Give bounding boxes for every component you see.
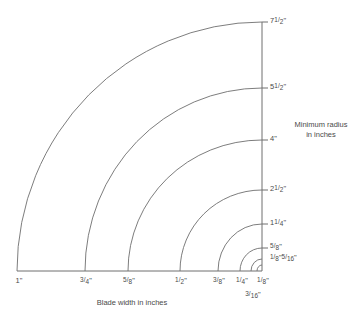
- tick-marks: [262, 22, 268, 248]
- y-tick-label-7-1-2: 71/2": [270, 17, 286, 25]
- arc-group: [17, 22, 262, 271]
- y-axis-title: Minimum radius in inches: [283, 120, 359, 140]
- x-axis-title: Blade width in inches: [62, 298, 202, 308]
- x-tick-label-3-16: 3/16": [245, 291, 261, 299]
- y-tick-label-5-1-2: 51/2": [270, 83, 286, 91]
- x-tick-label-1-2: 1/2": [175, 277, 187, 285]
- arc-1-8in: [257, 265, 262, 271]
- chart-canvas: [0, 0, 362, 322]
- y-axis-title-line2: in inches: [306, 130, 336, 139]
- arc-1-2in: [180, 190, 262, 271]
- y-tick-label-5-8: 5/8": [270, 243, 282, 251]
- x-tick-label-1-4: 1/4": [236, 277, 248, 285]
- x-tick-label-5-8: 5/8": [123, 277, 135, 285]
- arc-5-8in: [128, 140, 262, 271]
- x-tick-label-1-8: 1/8": [257, 277, 269, 285]
- arc-3-4in: [85, 88, 262, 271]
- y-tick-label-1-8: 1/8: [270, 253, 279, 260]
- y-tick-label-5-16: 5/16: [282, 253, 294, 260]
- y-tick-label-1-1-4: 11/4": [270, 219, 286, 227]
- x-tick-label-1: 1": [15, 277, 22, 285]
- arc-1in: [17, 22, 262, 271]
- x-tick-label-3-8: 3/8": [213, 277, 225, 285]
- arc-3-8in: [218, 224, 262, 271]
- x-tick-label-3-4: 3/4": [80, 277, 92, 285]
- y-tick-label-2-1-2: 21/2": [270, 185, 286, 193]
- axes: [17, 22, 262, 271]
- y-tick-label-4: 4": [270, 135, 277, 143]
- y-tick-label-inner-pair: 1/8"5/16": [270, 253, 297, 262]
- y-axis-title-line1: Minimum radius: [295, 120, 348, 129]
- blade-radius-chart: 71/2" 51/2" 4" 21/2" 11/4" 5/8" 1/8"5/16…: [0, 0, 362, 322]
